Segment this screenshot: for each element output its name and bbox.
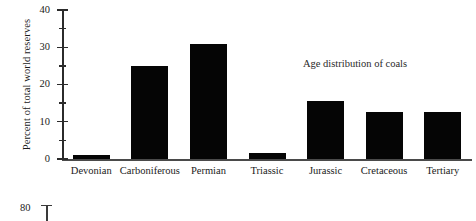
y-axis-tick-label: 40 <box>40 5 51 16</box>
category-label: Carboniferous <box>120 166 180 177</box>
category-label: Tertiary <box>426 166 459 177</box>
bar <box>249 153 286 159</box>
y-axis-tick-label: 20 <box>40 79 51 90</box>
y-axis-tick: 0 <box>57 158 68 159</box>
next-figure-y-axis-line <box>46 205 48 221</box>
y-axis-tick-label: 10 <box>40 116 51 127</box>
y-axis-tick: 20 <box>57 84 68 85</box>
next-figure-tick-mark <box>41 205 52 206</box>
y-axis-minor-tick <box>59 28 66 29</box>
y-axis-tick-label: 0 <box>45 154 50 165</box>
y-axis-tick: 30 <box>57 47 68 48</box>
y-axis-minor-tick <box>59 65 66 66</box>
next-figure-partial: 80 <box>0 203 476 221</box>
category-label: Cretaceous <box>361 166 408 177</box>
bar <box>424 112 461 159</box>
bar <box>366 112 403 159</box>
y-axis-minor-tick <box>59 102 66 103</box>
x-axis-line <box>62 159 472 161</box>
bar <box>131 66 168 159</box>
y-axis-tick: 40 <box>57 9 68 10</box>
y-axis-title: Percent of total world reserves <box>21 5 32 165</box>
y-axis-minor-tick <box>59 140 66 141</box>
bar <box>190 44 227 159</box>
category-label: Jurassic <box>309 166 342 177</box>
category-label: Devonian <box>71 166 112 177</box>
plot-area: 010203040 DevonianCarboniferousPermianTr… <box>62 10 472 159</box>
bar <box>73 155 110 159</box>
bar <box>307 101 344 159</box>
next-figure-y-tick-label: 80 <box>20 203 31 214</box>
age-distribution-of-coals-chart: Percent of total world reserves 01020304… <box>0 0 476 221</box>
chart-annotation: Age distribution of coals <box>303 58 407 69</box>
y-axis-tick: 10 <box>57 121 68 122</box>
category-label: Triassic <box>251 166 284 177</box>
category-label: Permian <box>191 166 226 177</box>
y-axis-tick-label: 30 <box>40 42 51 53</box>
